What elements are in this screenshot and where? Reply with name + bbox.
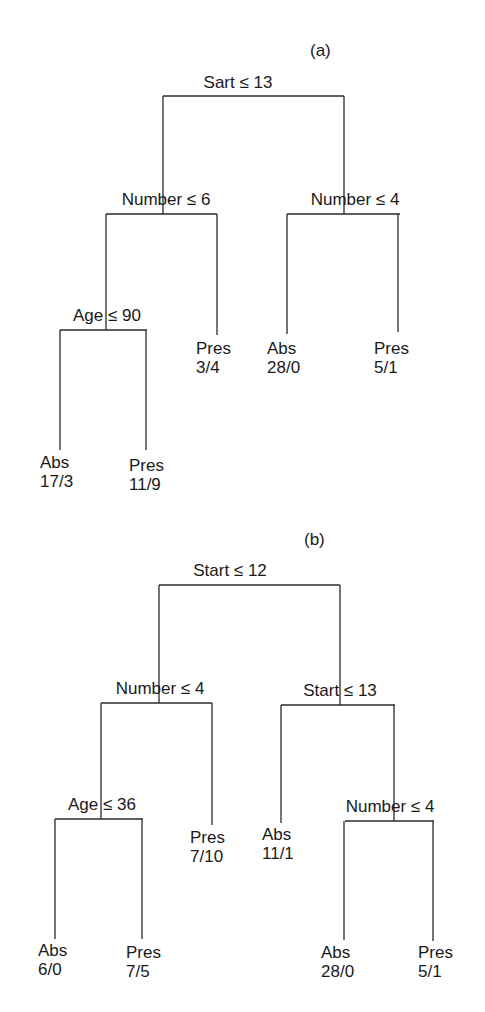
leaf-counts: 11/9 xyxy=(129,475,164,494)
tree-b-edges xyxy=(55,585,434,941)
leaf-counts: 11/1 xyxy=(262,844,294,863)
split-node-a-age-90: Age ≤ 90 xyxy=(73,306,141,325)
leaf-counts: 28/0 xyxy=(321,962,354,981)
leaf-counts: 28/0 xyxy=(267,358,300,377)
split-node-a-number-4: Number ≤ 4 xyxy=(311,190,400,209)
leaf-node-b-pres-7-5: Pres 7/5 xyxy=(126,943,161,981)
leaf-class: Abs xyxy=(267,339,300,358)
leaf-class: Pres xyxy=(129,456,164,475)
leaf-node-b-abs-11-1: Abs 11/1 xyxy=(262,825,294,863)
leaf-counts: 7/5 xyxy=(126,962,161,981)
split-node-b-start-13: Start ≤ 13 xyxy=(303,681,377,700)
leaf-counts: 6/0 xyxy=(38,960,67,979)
tree-edges xyxy=(0,0,485,1012)
panel-b-label: (b) xyxy=(304,530,325,549)
leaf-node-b-abs-28-0: Abs 28/0 xyxy=(321,943,354,981)
leaf-counts: 7/10 xyxy=(190,847,225,866)
leaf-class: Pres xyxy=(126,943,161,962)
split-node-b-number-4-right: Number ≤ 4 xyxy=(346,797,435,816)
leaf-node-a-pres-11-9: Pres 11/9 xyxy=(129,456,164,494)
leaf-class: Abs xyxy=(321,943,354,962)
leaf-node-a-pres-5-1: Pres 5/1 xyxy=(374,339,409,377)
leaf-class: Abs xyxy=(262,825,294,844)
split-node-b-number-4-left: Number ≤ 4 xyxy=(116,679,205,698)
leaf-class: Pres xyxy=(418,943,453,962)
leaf-class: Pres xyxy=(374,339,409,358)
panel-a-label: (a) xyxy=(310,41,331,60)
leaf-node-a-abs-28-0: Abs 28/0 xyxy=(267,339,300,377)
split-node-b-root: Start ≤ 12 xyxy=(193,561,267,580)
split-node-b-age-36: Age ≤ 36 xyxy=(68,795,136,814)
leaf-node-a-pres-3-4: Pres 3/4 xyxy=(196,339,231,377)
leaf-counts: 5/1 xyxy=(374,358,409,377)
split-node-a-root: Sart ≤ 13 xyxy=(204,73,273,92)
leaf-class: Abs xyxy=(40,453,73,472)
leaf-class: Abs xyxy=(38,941,67,960)
leaf-class: Pres xyxy=(196,339,231,358)
leaf-node-a-abs-17-3: Abs 17/3 xyxy=(40,453,73,491)
decision-tree-figure: (a) Sart ≤ 13 Number ≤ 6 Number ≤ 4 Age … xyxy=(0,0,485,1012)
leaf-class: Pres xyxy=(190,828,225,847)
leaf-node-b-pres-5-1: Pres 5/1 xyxy=(418,943,453,981)
leaf-counts: 17/3 xyxy=(40,472,73,491)
leaf-counts: 5/1 xyxy=(418,962,453,981)
tree-a-edges xyxy=(60,96,400,450)
leaf-counts: 3/4 xyxy=(196,358,231,377)
leaf-node-b-pres-7-10: Pres 7/10 xyxy=(190,828,225,866)
leaf-node-b-abs-6-0: Abs 6/0 xyxy=(38,941,67,979)
split-node-a-number-6: Number ≤ 6 xyxy=(122,190,211,209)
